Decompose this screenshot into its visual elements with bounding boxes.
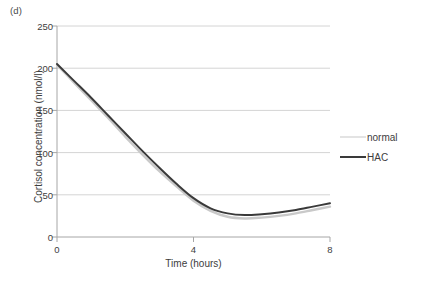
legend-item-hac[interactable]: HAC	[340, 147, 398, 167]
figure-panel-d: (d)	[0, 0, 425, 290]
gridlines	[57, 26, 330, 195]
y-tick-250: 250	[23, 21, 53, 32]
x-tick-4: 4	[179, 244, 209, 255]
legend-line-normal-icon	[340, 132, 366, 142]
y-axis-title: Cortisol concentration (nmol/l)	[33, 37, 44, 237]
chart-legend: normal HAC	[340, 127, 398, 167]
x-axis-title: Time (hours)	[57, 258, 330, 269]
axis-lines	[57, 26, 330, 237]
x-tick-8: 8	[315, 244, 345, 255]
x-tick-0: 0	[42, 244, 72, 255]
legend-label-hac: HAC	[367, 152, 388, 163]
x-axis-ticks	[57, 237, 330, 242]
legend-item-normal[interactable]: normal	[340, 127, 398, 147]
legend-label-normal: normal	[367, 132, 398, 143]
legend-line-hac-icon	[340, 152, 366, 162]
y-axis-ticks	[52, 26, 57, 237]
